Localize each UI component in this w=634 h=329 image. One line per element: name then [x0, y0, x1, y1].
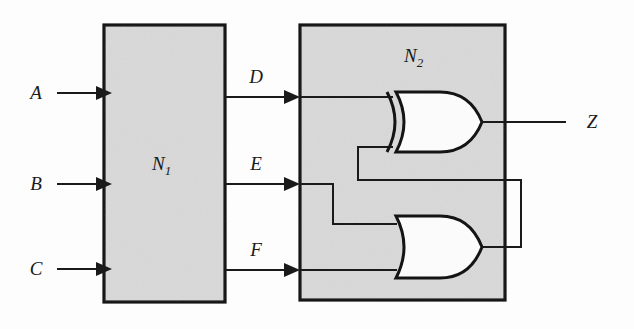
signal-d-arrowhead	[284, 90, 300, 104]
circuit-diagram-svg: N1 N2 A B C	[0, 0, 634, 329]
input-label-a: A	[28, 82, 42, 103]
or-gate[interactable]	[396, 216, 482, 278]
signal-label-e: E	[249, 153, 262, 174]
block-n2-label-sub: 2	[417, 55, 424, 70]
circuit-diagram-canvas: N1 N2 A B C	[0, 0, 634, 329]
signal-f-arrowhead	[284, 263, 300, 277]
xor-gate-body	[396, 92, 482, 152]
signal-label-f: F	[249, 239, 262, 260]
input-label-c: C	[30, 258, 43, 279]
signal-label-d: D	[248, 66, 263, 87]
block-n1[interactable]: N1	[104, 25, 225, 302]
block-n1-label-sub: 1	[165, 163, 172, 178]
output-label-z: Z	[587, 111, 598, 132]
signal-e-arrowhead	[284, 177, 300, 191]
or-gate-body	[396, 216, 482, 278]
input-label-b: B	[30, 173, 42, 194]
